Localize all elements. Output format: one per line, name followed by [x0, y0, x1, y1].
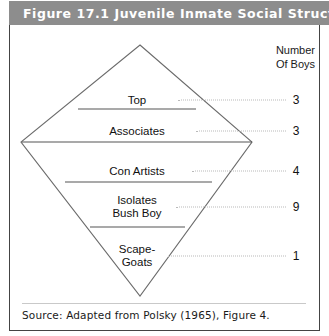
tier-label-top: Top	[128, 94, 147, 107]
tier-leader-associates	[196, 131, 286, 132]
tier-rule-con-artists	[65, 182, 212, 183]
tier-rule-associates	[22, 142, 252, 143]
source-divider	[22, 303, 306, 304]
tier-rule-top	[78, 109, 196, 110]
tier-value-isolates: 9	[293, 200, 300, 214]
tier-label-associates: Associates	[109, 125, 165, 138]
tier-leader-con-artists	[192, 171, 286, 172]
value-column-header-line1: Number	[235, 44, 315, 58]
page-title: Figure 17.1 Juvenile Inmate Social Struc…	[9, 6, 329, 21]
tier-value-con-artists: 4	[293, 164, 300, 178]
tier-value-top: 3	[293, 93, 300, 107]
value-column-header: Number Of Boys	[235, 44, 315, 71]
tier-label-isolates: Isolates Bush Boy	[112, 194, 161, 220]
value-column-header-line2: Of Boys	[235, 58, 315, 72]
tier-leader-scape-goats	[168, 256, 286, 257]
figure-container: Figure 17.1 Juvenile Inmate Social Struc…	[0, 0, 329, 336]
tier-rule-isolates	[90, 227, 185, 228]
figure-title-banner: Figure 17.1 Juvenile Inmate Social Struc…	[9, 1, 329, 25]
tier-value-associates: 3	[293, 124, 300, 138]
tier-leader-isolates	[176, 207, 286, 208]
tier-label-scape-goats: Scape- Goats	[119, 243, 155, 269]
tier-value-scape-goats: 1	[293, 249, 300, 263]
tier-label-con-artists: Con Artists	[109, 165, 165, 178]
tier-leader-top	[178, 100, 286, 101]
source-note: Source: Adapted from Polsky (1965), Figu…	[22, 309, 270, 321]
